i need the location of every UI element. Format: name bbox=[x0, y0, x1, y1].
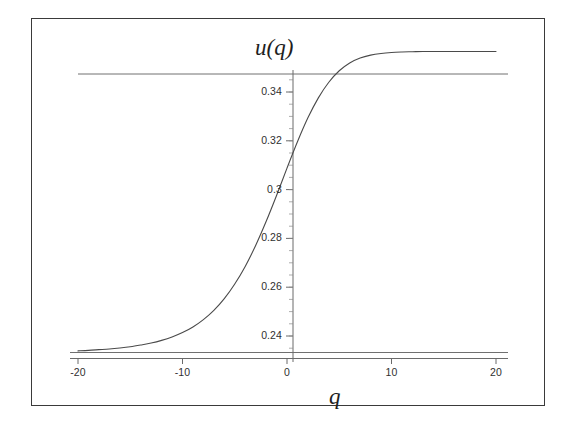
figure-container: u(q) q 0.340.320.30.280.260.24 -20-10010… bbox=[0, 0, 577, 429]
x-tick-label: 10 bbox=[372, 366, 412, 378]
x-tick-label: -10 bbox=[163, 366, 203, 378]
y-tick-label: 0.3 bbox=[236, 183, 282, 195]
y-tick-label: 0.34 bbox=[236, 85, 282, 97]
y-axis-title: u(q) bbox=[255, 35, 293, 61]
data-curve-uq bbox=[78, 51, 496, 350]
y-tick-marks bbox=[286, 80, 293, 348]
y-tick-label: 0.24 bbox=[236, 329, 282, 341]
y-tick-label: 0.28 bbox=[236, 231, 282, 243]
x-tick-label: 20 bbox=[476, 366, 516, 378]
x-tick-marks bbox=[78, 359, 496, 365]
x-axis-title: q bbox=[329, 384, 341, 410]
y-tick-label: 0.26 bbox=[236, 280, 282, 292]
y-tick-label: 0.32 bbox=[236, 134, 282, 146]
x-tick-label: -20 bbox=[58, 366, 98, 378]
x-tick-label: 0 bbox=[267, 366, 307, 378]
plot-canvas bbox=[0, 0, 577, 429]
